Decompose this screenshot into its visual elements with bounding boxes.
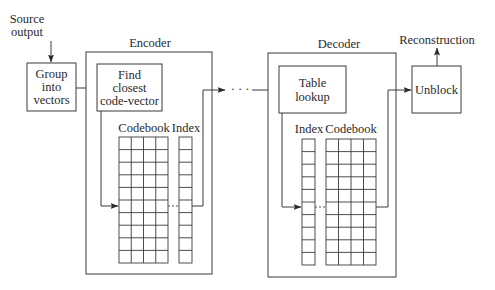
encoder-label: Encoder (129, 36, 171, 50)
find-line3: code-vector (100, 94, 160, 108)
decoder-label: Decoder (318, 37, 361, 51)
decoder-codebook-label: Codebook (325, 122, 377, 136)
group-line2: into (42, 80, 61, 94)
table-lookup-block: Table lookup (279, 66, 346, 113)
encoder-codebook-label: Codebook (118, 121, 170, 135)
encoder-index-label: Index (172, 121, 201, 135)
find-line1: Find (118, 68, 142, 82)
table-line2: lookup (295, 90, 330, 104)
unblock-label: Unblock (415, 83, 459, 97)
group-line3: vectors (33, 93, 69, 107)
vq-block-diagram: Source output Group into vectors Encoder… (0, 0, 495, 290)
unblock-block: Unblock (412, 66, 461, 113)
group-line1: Group (36, 67, 68, 81)
table-line1: Table (299, 76, 327, 90)
decoder-block: Decoder Table lookup Index Codebook (268, 37, 411, 277)
find-closest-codevector-block: Find closest code-vector (97, 64, 162, 111)
channel-ellipsis: · · · (231, 82, 250, 96)
source-output-line2: output (11, 25, 43, 39)
source-output-label: Source output (10, 12, 45, 39)
find-line2: closest (112, 81, 147, 95)
group-into-vectors-block: Group into vectors (27, 63, 76, 111)
source-output-line1: Source (10, 12, 45, 26)
reconstruction-label: Reconstruction (399, 33, 475, 47)
encoder-block: Encoder Find closest code-vector Codeboo… (86, 36, 225, 274)
decoder-index-label: Index (295, 122, 324, 136)
